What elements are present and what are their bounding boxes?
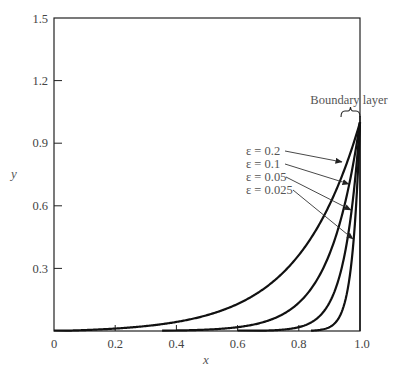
chart-svg: 0 0.2 0.4 0.6 0.8 1.0 0.3 0.6 0.9 1.2 1.… [0, 0, 397, 371]
svg-text:0.4: 0.4 [169, 337, 185, 351]
arrow-eps-0.2 [285, 151, 342, 162]
svg-text:0.3: 0.3 [32, 262, 48, 276]
x-axis-label: x [202, 352, 209, 367]
boundary-layer-brace [341, 107, 360, 117]
label-eps-0.05: ε = 0.05 [246, 170, 286, 184]
svg-text:0.6: 0.6 [32, 199, 48, 213]
label-eps-0.1: ε = 0.1 [246, 157, 280, 171]
svg-text:0.6: 0.6 [230, 337, 246, 351]
svg-text:1.5: 1.5 [32, 12, 48, 26]
label-eps-0.2: ε = 0.2 [246, 144, 280, 158]
svg-text:0.2: 0.2 [107, 337, 123, 351]
svg-text:0.8: 0.8 [291, 337, 307, 351]
x-tick-labels: 0 0.2 0.4 0.6 0.8 1.0 [51, 337, 370, 351]
y-ticks [54, 81, 62, 269]
y-axis-label: y [9, 166, 17, 181]
svg-text:1.2: 1.2 [32, 74, 48, 88]
boundary-layer-label: Boundary layer [310, 93, 388, 107]
curve-eps-0.2 [54, 122, 360, 330]
svg-text:1.0: 1.0 [354, 337, 370, 351]
svg-text:0.9: 0.9 [32, 136, 48, 150]
arrow-eps-0.025 [293, 190, 353, 239]
svg-text:0: 0 [51, 337, 57, 351]
curve-labels: ε = 0.2 ε = 0.1 ε = 0.05 ε = 0.025 [246, 144, 293, 197]
curves [54, 116, 360, 331]
y-tick-labels: 0.3 0.6 0.9 1.2 1.5 [32, 12, 48, 276]
label-eps-0.025: ε = 0.025 [246, 183, 293, 197]
